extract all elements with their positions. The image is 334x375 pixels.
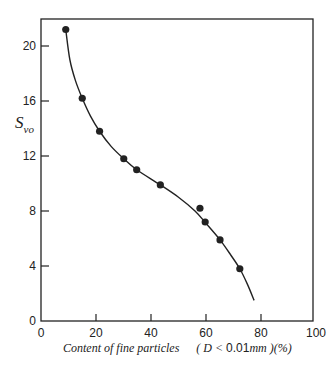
chart: 048121620 020406080100 Svo Content of fi…: [0, 0, 334, 375]
y-tick-label: 20: [23, 39, 37, 53]
data-point: [202, 218, 209, 225]
y-tick-label: 4: [29, 259, 36, 273]
y-axis-label-subscript: vo: [24, 123, 35, 135]
x-axis-label-text: Content of fine particles: [63, 341, 180, 355]
x-axis-label-unit: mm )(%): [249, 341, 291, 355]
y-tick-label: 0: [29, 314, 36, 328]
fitted-curve: [66, 30, 254, 301]
data-point: [157, 181, 164, 188]
y-tick-label: 8: [29, 204, 36, 218]
data-point: [120, 155, 127, 162]
y-tick-label: 12: [23, 149, 37, 163]
x-tick-label: 40: [144, 326, 158, 340]
data-point: [133, 166, 140, 173]
x-tick-label: 20: [89, 326, 103, 340]
plot-border: [41, 19, 313, 321]
x-tick-label: 80: [254, 326, 268, 340]
x-tick-label: 60: [199, 326, 213, 340]
x-axis-label-condition: ( D <: [196, 341, 223, 355]
y-axis-ticks: 048121620: [23, 39, 49, 328]
data-point: [236, 265, 243, 272]
data-point: [196, 205, 203, 212]
data-point: [62, 26, 69, 33]
x-tick-label: 0: [38, 326, 45, 340]
data-point: [79, 95, 86, 102]
y-axis-label: Svo: [15, 113, 34, 135]
data-point: [216, 236, 223, 243]
x-axis-label: Content of fine particles ( D < 0.01mm )…: [63, 341, 292, 355]
data-point: [96, 128, 103, 135]
x-tick-label: 100: [306, 326, 326, 340]
x-axis-ticks: 020406080100: [38, 314, 327, 340]
x-axis-label-value: 0.01: [226, 341, 250, 355]
plot-frame: [41, 19, 313, 321]
y-tick-label: 16: [23, 94, 37, 108]
